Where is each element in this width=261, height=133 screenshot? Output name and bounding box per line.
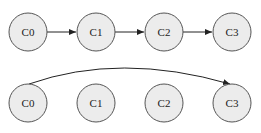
edge-arc-c0-c3: [29, 68, 230, 84]
node-bottom-c0: C0: [9, 84, 47, 122]
svg-text:C3: C3: [226, 97, 239, 109]
svg-text:C0: C0: [22, 26, 35, 38]
node-bottom-c3: C3: [213, 84, 251, 122]
svg-text:C0: C0: [22, 97, 35, 109]
node-top-c0: C0: [9, 13, 47, 51]
node-bottom-c1: C1: [77, 84, 115, 122]
diagram: C0 C1 C2 C3 C0 C1 C2 C3: [0, 0, 261, 133]
svg-text:C3: C3: [226, 26, 239, 38]
svg-text:C2: C2: [158, 26, 171, 38]
node-top-c2: C2: [145, 13, 183, 51]
svg-text:C1: C1: [90, 26, 103, 38]
svg-text:C2: C2: [158, 97, 171, 109]
node-top-c3: C3: [213, 13, 251, 51]
node-top-c1: C1: [77, 13, 115, 51]
svg-text:C1: C1: [90, 97, 103, 109]
node-bottom-c2: C2: [145, 84, 183, 122]
